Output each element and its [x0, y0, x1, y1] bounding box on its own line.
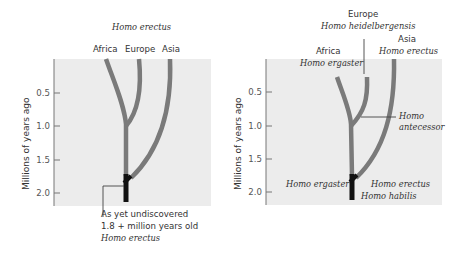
antecessor-label-line-2: antecessor: [399, 123, 445, 131]
right-region-europe: Europe: [348, 10, 378, 19]
diagram-graphics: [0, 0, 455, 255]
left-tick-2-0: 2.0: [26, 189, 50, 198]
left-y-axis-label: Millions of years ago: [22, 98, 31, 190]
right-species-erectus-top: Homo erectus: [379, 47, 438, 55]
left-title: Homo erectus: [112, 23, 171, 31]
right-y-axis-label: Millions of years ago: [234, 98, 243, 190]
right-species-ergaster-bottom: Homo ergaster: [286, 180, 349, 188]
annotation-line-3: Homo erectus: [101, 234, 160, 242]
right-species-heidelbergensis: Homo heidelbergensis: [321, 22, 415, 30]
antecessor-label-line-1: Homo: [399, 112, 424, 120]
annotation-line-1: As yet undiscovered: [101, 210, 188, 219]
right-region-asia: Asia: [398, 35, 416, 44]
annotation-line-2: 1.8 + million years old: [101, 222, 198, 231]
right-species-erectus-bottom: Homo erectus: [371, 180, 430, 188]
right-species-ergaster-top: Homo ergaster: [300, 59, 363, 67]
left-region-africa: Africa: [93, 45, 118, 54]
left-panel-background: [54, 59, 211, 206]
right-tick-0-5: 0.5: [238, 88, 262, 97]
right-region-africa: Africa: [316, 47, 341, 56]
left-tick-0-5: 0.5: [26, 89, 50, 98]
right-species-habilis: Homo habilis: [361, 192, 417, 200]
left-region-europe: Europe: [125, 45, 155, 54]
left-region-asia: Asia: [162, 45, 180, 54]
